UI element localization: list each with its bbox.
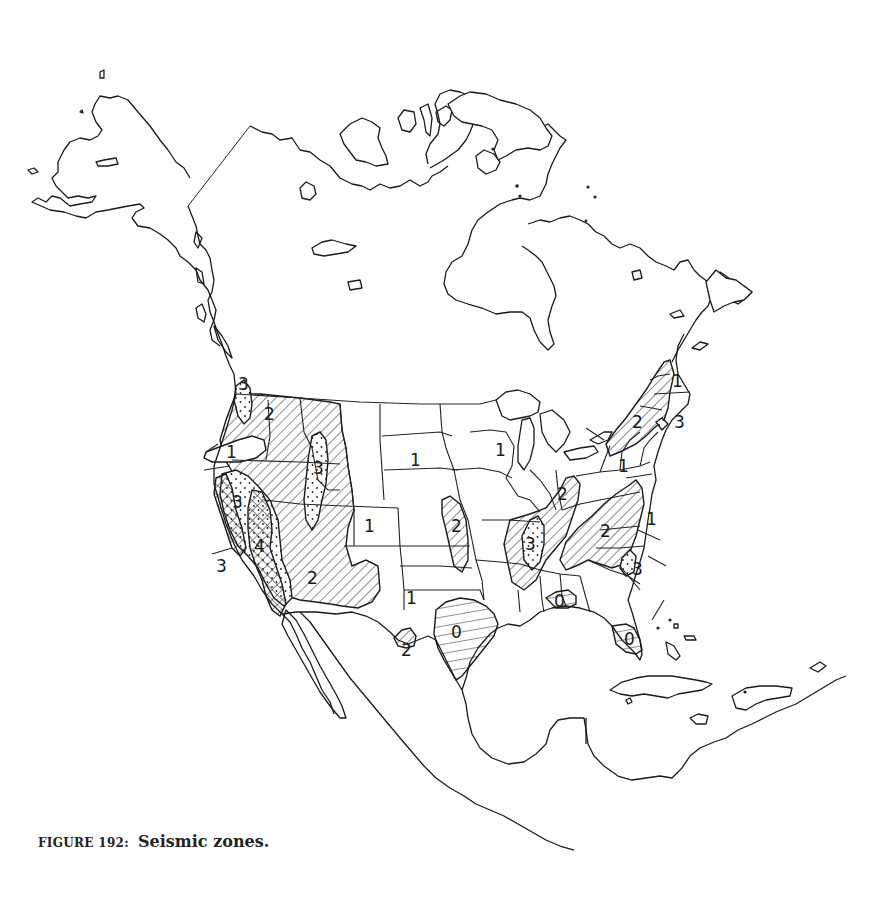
figure-title: Seismic zones. bbox=[138, 832, 269, 851]
figure-number: FIGURE 192: bbox=[38, 836, 129, 850]
zone-label: 2 bbox=[557, 484, 568, 504]
zone-label: 1 bbox=[226, 442, 237, 462]
zone-label: 0 bbox=[624, 629, 635, 649]
zone-label: 1 bbox=[618, 456, 629, 476]
zone-label: 3 bbox=[238, 374, 249, 394]
zone-label: 3 bbox=[216, 556, 227, 576]
zone-label: 1 bbox=[410, 450, 421, 470]
mexico-central-america bbox=[282, 610, 846, 850]
zone-label: 3 bbox=[525, 534, 536, 554]
caribbean-islands bbox=[610, 618, 826, 724]
zone-label: 1 bbox=[495, 440, 506, 460]
zone-label: 2 bbox=[401, 640, 412, 660]
alaska-canada-border bbox=[188, 126, 250, 206]
pacific-northwest-coast bbox=[188, 206, 234, 374]
zone-label: 2 bbox=[600, 521, 611, 541]
zone-label: 2 bbox=[264, 404, 275, 424]
zone-label: 0 bbox=[554, 591, 565, 611]
canada bbox=[250, 90, 752, 362]
zone-label: 3 bbox=[232, 492, 243, 512]
zone-label: 3 bbox=[313, 458, 324, 478]
seismic-zone-map: 3 2 1 3 3 4 3 2 1 1 2 1 1 2 0 0 0 2 3 2 … bbox=[0, 0, 895, 902]
zone-label: 1 bbox=[646, 509, 657, 529]
alaska bbox=[28, 70, 250, 346]
zone-label: 3 bbox=[674, 412, 685, 432]
zone-0-texas bbox=[434, 598, 498, 680]
zone-label: 2 bbox=[307, 568, 318, 588]
zone-label: 1 bbox=[364, 516, 375, 536]
zone-label: 0 bbox=[451, 622, 462, 642]
zone-label: 3 bbox=[632, 559, 643, 579]
zone-label: 4 bbox=[254, 536, 265, 556]
zone-label: 2 bbox=[632, 412, 643, 432]
zone-label: 2 bbox=[451, 516, 462, 536]
zone-label: 1 bbox=[672, 371, 683, 391]
figure-caption: FIGURE 192: Seismic zones. bbox=[38, 832, 269, 851]
zone-label: 1 bbox=[406, 588, 417, 608]
zone-2-new-england bbox=[606, 360, 674, 456]
